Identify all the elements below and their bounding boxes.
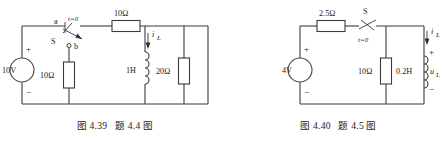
inductor-1h-label: 1H: [126, 66, 136, 75]
inductor-1h-coil: [145, 52, 149, 84]
switch-terminal-b-node: [67, 44, 71, 48]
series-resistor-10ohm-label: 10Ω: [114, 9, 128, 18]
inductor-0p2h-label: 0.2H: [396, 67, 412, 76]
source-minus-sign: −: [26, 87, 31, 97]
voltage-label-subscript: L: [435, 71, 440, 79]
switch-name-label: S: [51, 37, 56, 46]
shunt-resistor-10ohm-body: [381, 58, 392, 84]
shunt-resistor-10ohm-label: 10Ω: [40, 71, 54, 80]
circuit-diagram-4-39: 10V + − a t=0 S b 10Ω 10Ω: [0, 0, 230, 118]
voltage-minus-sign: −: [429, 84, 434, 94]
figure-4-39: 10V + − a t=0 S b 10Ω 10Ω: [0, 0, 230, 144]
current-label-subscript: L: [435, 31, 440, 39]
switch-terminal-a-label: a: [54, 17, 58, 26]
switch-cross-tick: [361, 20, 374, 30]
current-label-i: i: [152, 30, 155, 39]
series-resistor-10ohm-body: [112, 21, 140, 32]
switch-terminal-b-label: b: [74, 42, 78, 51]
shunt-resistor-10ohm-label: 10Ω: [358, 67, 372, 76]
voltage-label-u: u: [430, 67, 434, 76]
figure-pair-container: 10V + − a t=0 S b 10Ω 10Ω: [0, 0, 447, 144]
figure-caption-4-40: 图 4.40 题 4.5 图: [230, 118, 447, 132]
load-resistor-20ohm-label: 20Ω: [156, 67, 170, 76]
switch-blade-arrowhead: [76, 34, 83, 39]
shunt-resistor-10ohm-body: [64, 62, 75, 88]
series-resistor-2p5ohm-label: 2.5Ω: [319, 9, 335, 18]
switch-time-label: t=0: [358, 36, 369, 44]
load-resistor-20ohm-body: [179, 58, 190, 84]
figure-4-40: 4V + − 2.5Ω S t=0 10Ω 0.2H i L: [230, 0, 447, 144]
current-label-subscript: L: [156, 34, 161, 42]
voltage-source-label: 10V: [2, 66, 16, 75]
switch-time-label: t=0: [68, 15, 79, 23]
series-resistor-2p5ohm-body: [317, 21, 345, 32]
figure-caption-4-39: 图 4.39 题 4.4 图: [0, 118, 230, 132]
circuit-diagram-4-40: 4V + − 2.5Ω S t=0 10Ω 0.2H i L: [230, 0, 447, 118]
source-minus-sign: −: [304, 87, 309, 97]
source-plus-sign: +: [26, 44, 31, 54]
current-arrow-head: [425, 39, 430, 46]
source-plus-sign: +: [304, 44, 309, 54]
current-label-i: i: [431, 27, 434, 36]
switch-name-label: S: [363, 7, 368, 16]
voltage-source-label: 4V: [282, 66, 292, 75]
inductor-0p2h-coil: [424, 56, 428, 88]
voltage-plus-sign: +: [429, 47, 434, 57]
current-arrow-head: [146, 43, 151, 50]
